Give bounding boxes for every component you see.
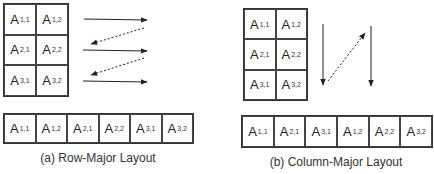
cell-base: A bbox=[42, 121, 51, 136]
memory-cell: A2,1 bbox=[274, 116, 306, 147]
cell-subscript: 3,1 bbox=[321, 128, 331, 135]
memory-cell: A2,2 bbox=[369, 116, 401, 147]
row-arrow-icon bbox=[83, 50, 147, 51]
memory-cell: A3,2 bbox=[162, 114, 194, 143]
memory-cell: A1,1 bbox=[242, 116, 274, 147]
memory-cell: A2,2 bbox=[99, 114, 131, 143]
cell-subscript: 1,1 bbox=[258, 128, 268, 135]
cell-subscript: 2,2 bbox=[384, 128, 394, 135]
cell-subscript: 3,2 bbox=[416, 128, 426, 135]
memory-cell: A3,2 bbox=[400, 116, 432, 147]
cell-subscript: 1,2 bbox=[51, 125, 61, 132]
memory-cell: A1,1 bbox=[4, 114, 36, 143]
row-arrow-icon bbox=[84, 19, 147, 20]
cell-base: A bbox=[406, 124, 415, 139]
wrap-arrow-icon bbox=[91, 28, 144, 44]
cell-base: A bbox=[168, 121, 177, 136]
column-major-memory-strip: A1,1 A2,1 A3,1 A1,2 A2,2 A3,2 bbox=[241, 115, 433, 148]
wrap-arrow-icon bbox=[91, 58, 144, 75]
cell-subscript: 2,1 bbox=[83, 125, 93, 132]
memory-cell: A3,1 bbox=[130, 114, 162, 143]
cell-subscript: 2,1 bbox=[289, 128, 299, 135]
memory-cell: A1,2 bbox=[36, 114, 68, 143]
cell-subscript: 1,1 bbox=[20, 125, 30, 132]
memory-cell: A1,2 bbox=[337, 116, 369, 147]
cell-subscript: 3,2 bbox=[177, 125, 187, 132]
column-major-arrows bbox=[323, 24, 371, 86]
cell-base: A bbox=[73, 121, 82, 136]
cell-subscript: 2,2 bbox=[114, 125, 124, 132]
row-major-arrows bbox=[83, 19, 147, 82]
cell-base: A bbox=[280, 124, 289, 139]
cell-base: A bbox=[248, 124, 257, 139]
cell-base: A bbox=[136, 121, 145, 136]
row-major-memory-strip: A1,1 A1,2 A2,1 A2,2 A3,1 A3,2 bbox=[3, 113, 194, 144]
wrap-arrow-icon bbox=[328, 33, 365, 81]
memory-cell: A3,1 bbox=[305, 116, 337, 147]
cell-base: A bbox=[311, 124, 320, 139]
column-major-caption: (b) Column-Major Layout bbox=[238, 155, 434, 169]
row-arrow-icon bbox=[83, 81, 147, 82]
cell-subscript: 1,2 bbox=[353, 128, 363, 135]
memory-cell: A2,1 bbox=[67, 114, 99, 143]
cell-subscript: 3,1 bbox=[146, 125, 156, 132]
cell-base: A bbox=[10, 121, 19, 136]
cell-base: A bbox=[343, 124, 352, 139]
cell-base: A bbox=[105, 121, 114, 136]
cell-base: A bbox=[375, 124, 384, 139]
row-major-caption: (a) Row-Major Layout bbox=[0, 151, 196, 165]
